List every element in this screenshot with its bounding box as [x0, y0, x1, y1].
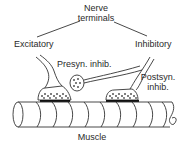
presynaptic-inhibition-label: Presyn. inhib.: [57, 59, 112, 69]
presynaptic-bouton: [70, 75, 84, 91]
postsynaptic-inhibition-label-line2: inhib.: [138, 82, 178, 92]
leader-line-excitatory: [37, 21, 80, 37]
muscle-fiber: [13, 102, 176, 127]
neuromuscular-diagram: Nerve terminals Excitatory Inhibitory Pr…: [0, 0, 187, 149]
nerve-terminals-label-line1: Nerve: [78, 3, 114, 13]
inhibitory-terminal: [106, 89, 139, 102]
nerve-terminals-label-line2: terminals: [72, 13, 120, 23]
excitatory-label: Excitatory: [14, 39, 54, 49]
leader-line-inhibitory: [114, 22, 147, 36]
muscle-label: Muscle: [72, 132, 112, 142]
inhibitory-label: Inhibitory: [135, 39, 172, 49]
postsynaptic-inhibition-label-line1: Postsyn.: [138, 72, 178, 82]
excitatory-terminal: [38, 86, 71, 102]
